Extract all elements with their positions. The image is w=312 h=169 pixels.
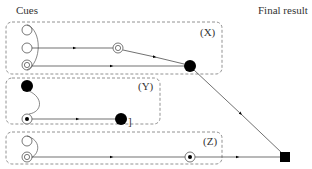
double-circle-node (113, 43, 123, 53)
cue-diagram: (X) ] (Y) (Z) (0, 0, 312, 169)
open-circle-node (22, 43, 32, 53)
filled-circle-node (21, 80, 33, 92)
filled-circle-node (115, 113, 127, 125)
group-label-y: (Y) (138, 80, 154, 93)
group-label-x: (X) (200, 26, 216, 39)
final-result-node (280, 152, 290, 162)
edge (123, 50, 155, 57)
edge (194, 70, 241, 114)
cue-grouping-arc (29, 91, 40, 114)
double-circle-node (22, 60, 32, 70)
bracket-annotation: ] (128, 115, 132, 127)
group-label-z: (Z) (203, 135, 217, 148)
double-circle-node (22, 152, 32, 162)
